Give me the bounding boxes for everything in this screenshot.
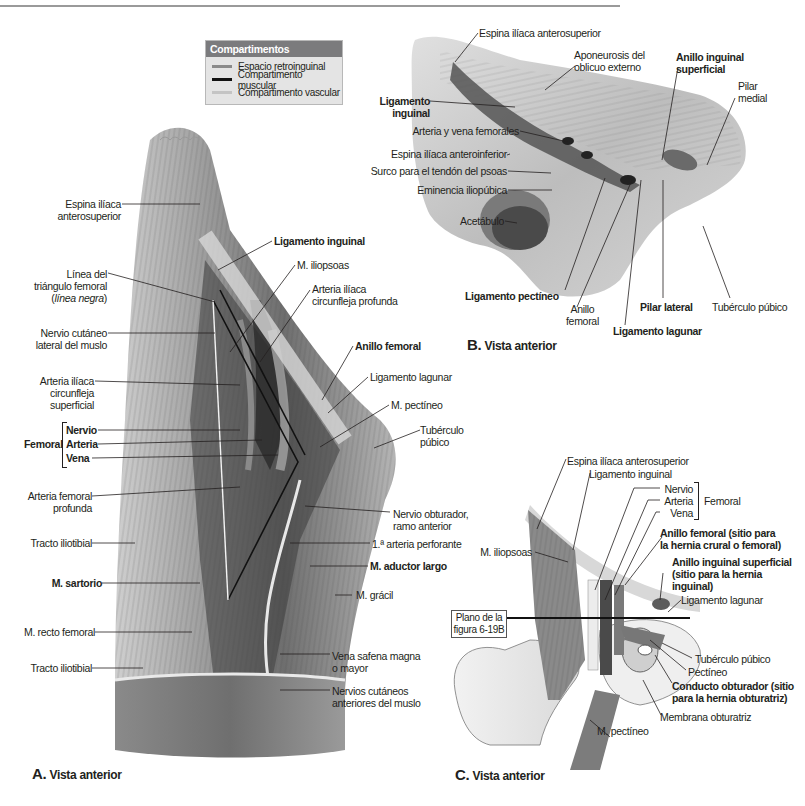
plane-reference-box: Plano de la figura 6-19B (451, 610, 507, 638)
label-ligamento-inguinal-a: Ligamento inguinal (274, 235, 365, 247)
legend-title: Compartimentos (206, 41, 342, 57)
label-vena-safena: Vena safena magna o mayor (332, 650, 420, 674)
label-anillo-inguinal-c: Anillo inguinal superficial (sitio para … (672, 556, 792, 592)
label-m-pectineo-c: M. pectíneo (597, 725, 649, 737)
label-femoral-group: Femoral (24, 438, 63, 450)
label-nervios-cutaneos-anteriores: Nervios cutáneos anteriores del muslo (332, 685, 421, 709)
label-femoral-group-c: Femoral (704, 495, 740, 507)
label-arteria-femoral: Arteria (66, 438, 98, 450)
legend-item-vascular: Compartimento vascular (206, 86, 342, 99)
label-pectineo-c: Pectíneo (688, 666, 727, 678)
label-m-gracil: M. grácil (356, 589, 393, 601)
label-nervio-obturador: Nervio obturador, ramo anterior (393, 508, 468, 532)
label-vena-c: Vena (670, 507, 693, 519)
label-espina-iliaca-ai: Espina ilíaca anteroinferior (391, 148, 507, 160)
caption-panel-c: C. Vista anterior (455, 766, 545, 783)
caption-panel-a: A. Vista anterior (32, 765, 122, 782)
label-vena-femoral: Vena (66, 452, 89, 464)
legend-swatch-light (212, 91, 232, 94)
label-espina-iliaca-as-b: Espina ilíaca anterosuperior (479, 27, 601, 39)
label-pilar-medial: Pilar medial (738, 80, 767, 104)
label-m-iliopsoas-c: M. iliopsoas (480, 546, 532, 558)
label-arteria-vena-femorales: Arteria y vena femorales (412, 125, 519, 137)
label-m-recto-femoral: M. recto femoral (24, 626, 95, 638)
label-m-iliopsoas-a: M. iliopsoas (297, 259, 349, 271)
label-nervio-c: Nervio (664, 483, 693, 495)
label-ligamento-pectineo: Ligamento pectíneo (465, 290, 559, 302)
label-anillo-femoral-a: Anillo femoral (355, 340, 421, 352)
label-m-pectineo-a: M. pectíneo (391, 399, 443, 411)
label-membrana-obturatriz: Membrana obturatriz (660, 711, 751, 723)
label-conducto-obturador: Conducto obturador (sitio para la hernia… (672, 680, 794, 704)
label-tracto-iliotibial-2: Tracto iliotibial (30, 662, 92, 674)
caption-panel-b: B. Vista anterior (467, 336, 557, 353)
compartments-legend: Compartimentos Espacio retroinguinal Com… (205, 40, 343, 105)
label-m-sartorio: M. sartorio (52, 577, 102, 589)
label-anillo-inguinal-sup-b: Anillo inguinal superficial (676, 51, 744, 75)
label-ligamento-inguinal-b: Ligamento inguinal (380, 95, 430, 119)
label-ligamento-inguinal-c: Ligamento inguinal (589, 468, 672, 480)
label-m-aductor-largo: M. aductor largo (370, 560, 447, 572)
label-arteria-femoral-profunda: Arteria femoral profunda (28, 490, 92, 514)
label-tuberculo-publico-b: Tubérculo púbico (712, 301, 787, 313)
label-pilar-lateral: Pilar lateral (640, 301, 693, 313)
label-aponeurosis: Aponeurosis del oblicuo externo (574, 49, 645, 73)
legend-swatch-black (212, 78, 232, 81)
label-espina-iliaca-as-c: Espina ilíaca anterosuperior (567, 455, 689, 467)
femoral-bracket-c (694, 482, 699, 520)
label-nervio-cutaneo-lateral: Nervio cutáneo lateral del muslo (36, 327, 107, 351)
label-linea-triangulo: Línea del triángulo femoral (línea negra… (34, 268, 107, 304)
label-tuberculo-publico-a: Tubérculo púbico (420, 424, 464, 448)
label-espina-iliaca-as: Espina ilíaca anterosuperior (57, 198, 121, 222)
label-acetabulo: Acetábulo (460, 215, 504, 227)
label-tuberculo-publico-c: Tubérculo púbico (695, 653, 770, 665)
label-tracto-iliotibial-1: Tracto iliotibial (30, 537, 92, 549)
label-ligamento-lagunar-a: Ligamento lagunar (370, 371, 452, 383)
legend-swatch-gray (212, 65, 232, 68)
legend-item-muscular: Compartimento muscular (206, 73, 342, 86)
label-nervio-femoral: Nervio (66, 424, 97, 436)
label-arteria-c: Arteria (664, 495, 693, 507)
label-arteria-circunfleja-prof: Arteria ilíaca circunfleja profunda (312, 283, 398, 307)
label-eminencia-iliopubica: Eminencia iliopúbica (417, 184, 507, 196)
label-ligamento-lagunar-c: Ligamento lagunar (681, 594, 763, 606)
label-arteria-circunfleja-sup: Arteria ilíaca circunfleja superficial (40, 375, 94, 411)
label-ligamento-lagunar-b: Ligamento lagunar (613, 325, 702, 337)
label-surco-psoas: Surco para el tendón del psoas (371, 165, 507, 177)
label-anillo-femoral-c: Anillo femoral (sitio para la hernia cru… (660, 527, 781, 551)
label-anillo-femoral-b: Anillo femoral (566, 303, 599, 327)
label-primera-arteria-perforante: 1.ª arteria perforante (372, 538, 462, 550)
